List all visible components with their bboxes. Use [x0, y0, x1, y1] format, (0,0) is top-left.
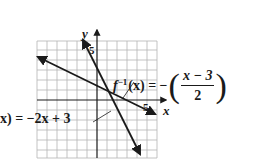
x-axis-label: x: [163, 104, 170, 117]
y-axis-label: y: [82, 27, 88, 40]
f-inverse-label: f −1 (x) = − ( x − 3 2 ): [113, 69, 227, 103]
fraction: x − 3 2: [181, 69, 214, 103]
y-tick-label: 5: [89, 45, 95, 56]
x-tick-label: 5: [143, 102, 149, 113]
right-paren: ): [215, 72, 226, 99]
f-label: x) = −2x + 3: [0, 112, 71, 126]
left-paren: (: [169, 72, 180, 99]
